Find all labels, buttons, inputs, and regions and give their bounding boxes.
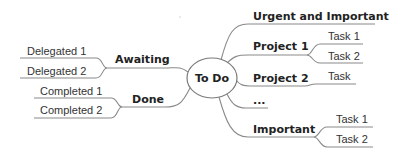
branch-urgent-and-important[interactable]: Urgent and Important bbox=[253, 10, 389, 23]
center-node[interactable]: To Do bbox=[187, 58, 237, 98]
leaf-project-1-task-2[interactable]: Task 2 bbox=[328, 50, 360, 62]
branch-ellipsis[interactable]: ... bbox=[253, 94, 266, 107]
leaf-important-task-2-label: Task 2 bbox=[336, 133, 368, 145]
branch-important-label: Important bbox=[253, 123, 315, 136]
mind-map: To Do Awaiting Delegated 1 Delegated 2 D… bbox=[0, 0, 394, 158]
leaf-delegated-1[interactable]: Delegated 1 bbox=[27, 45, 86, 57]
speck bbox=[179, 16, 181, 18]
leaf-project-2-task[interactable]: Task bbox=[328, 70, 351, 82]
leaf-completed-1-label: Completed 1 bbox=[40, 85, 102, 97]
leaf-completed-2[interactable]: Completed 2 bbox=[40, 104, 102, 116]
leaf-project-1-task-2-label: Task 2 bbox=[328, 50, 360, 62]
branch-project-2-label: Project 2 bbox=[253, 72, 309, 85]
leaf-delegated-2-label: Delegated 2 bbox=[27, 65, 86, 77]
branch-urgent-and-important-label: Urgent and Important bbox=[253, 10, 389, 23]
branch-done-label: Done bbox=[132, 93, 164, 106]
branch-awaiting[interactable]: Awaiting bbox=[115, 53, 170, 66]
leaf-project-1-task-1-label: Task 1 bbox=[328, 30, 360, 42]
leaf-completed-1[interactable]: Completed 1 bbox=[40, 85, 102, 97]
branch-project-1-label: Project 1 bbox=[253, 40, 309, 53]
connector-center-project-1 bbox=[227, 55, 307, 63]
leaf-completed-2-label: Completed 2 bbox=[40, 104, 102, 116]
leaf-delegated-1-label: Delegated 1 bbox=[27, 45, 86, 57]
branch-done[interactable]: Done bbox=[132, 93, 164, 106]
branch-ellipsis-label: ... bbox=[253, 94, 266, 107]
leaf-project-1-task-1[interactable]: Task 1 bbox=[328, 30, 360, 42]
leaf-important-task-1-label: Task 1 bbox=[336, 113, 368, 125]
leaf-delegated-2[interactable]: Delegated 2 bbox=[27, 65, 86, 77]
center-node-label: To Do bbox=[195, 72, 230, 85]
connector-center-awaiting bbox=[107, 68, 188, 72]
branch-project-1[interactable]: Project 1 bbox=[253, 40, 309, 53]
leaf-project-2-task-label: Task bbox=[328, 70, 351, 82]
leaf-important-task-2[interactable]: Task 2 bbox=[336, 133, 368, 145]
branch-awaiting-label: Awaiting bbox=[115, 53, 170, 66]
branch-important[interactable]: Important bbox=[253, 123, 315, 136]
branch-project-2[interactable]: Project 2 bbox=[253, 72, 309, 85]
leaf-important-task-1[interactable]: Task 1 bbox=[336, 113, 368, 125]
